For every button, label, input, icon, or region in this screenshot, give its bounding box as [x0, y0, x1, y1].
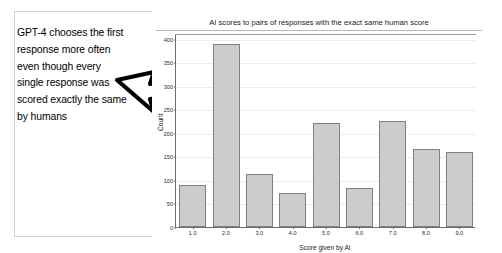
bar — [379, 121, 406, 227]
x-tick-mark — [259, 227, 260, 229]
y-tick-label: 250 — [164, 107, 173, 113]
bar — [446, 152, 473, 227]
bar — [179, 185, 206, 227]
bar-slot: 2.0 — [213, 34, 240, 227]
y-tick-label: 350 — [164, 60, 173, 66]
x-tick-mark — [226, 227, 227, 229]
bar-slot: 1.0 — [179, 34, 206, 227]
y-tick-label: 300 — [164, 84, 173, 90]
bar-slot: 6.0 — [346, 34, 373, 227]
x-tick-label: 3.0 — [255, 230, 263, 236]
x-tick-mark — [326, 227, 327, 229]
x-tick-mark — [193, 227, 194, 229]
bar-slot: 4.0 — [279, 34, 306, 227]
y-tick-label: 200 — [164, 131, 173, 137]
x-tick-mark — [426, 227, 427, 229]
plot-area: 050100150200250300350400 1.02.03.04.05.0… — [175, 35, 475, 228]
title-divider — [156, 30, 482, 31]
y-tick-label: 150 — [164, 154, 173, 160]
bar-slot: 8.0 — [413, 34, 440, 227]
y-tick-label: 50 — [167, 201, 173, 207]
bar-slot: 9.0 — [446, 34, 473, 227]
chart-title: AI scores to pairs of responses with the… — [152, 18, 486, 27]
x-tick-label: 7.0 — [389, 230, 397, 236]
x-axis-label: Score given by AI — [175, 244, 475, 251]
y-tick-label: 400 — [164, 37, 173, 43]
screenshot-root: GPT-4 chooses the first response more of… — [0, 0, 502, 253]
x-tick-label: 4.0 — [289, 230, 297, 236]
chart-panel: AI scores to pairs of responses with the… — [152, 11, 486, 237]
x-tick-label: 1.0 — [189, 230, 197, 236]
y-axis-label: Count — [157, 113, 164, 131]
x-tick-mark — [359, 227, 360, 229]
x-tick-label: 5.0 — [322, 230, 330, 236]
bar — [213, 44, 240, 227]
bar — [413, 149, 440, 227]
bar-series: 1.02.03.04.05.06.07.08.09.0 — [176, 34, 476, 227]
x-tick-mark — [459, 227, 460, 229]
y-tick-label: 100 — [164, 178, 173, 184]
bar-slot: 5.0 — [313, 34, 340, 227]
x-tick-label: 6.0 — [355, 230, 363, 236]
x-tick-mark — [393, 227, 394, 229]
bar-slot: 3.0 — [246, 34, 273, 227]
bar — [279, 193, 306, 227]
bar — [246, 174, 273, 227]
x-tick-mark — [293, 227, 294, 229]
x-tick-label: 8.0 — [422, 230, 430, 236]
bar — [313, 123, 340, 227]
annotation-text: GPT-4 chooses the first response more of… — [17, 25, 129, 126]
x-tick-label: 9.0 — [455, 230, 463, 236]
y-tick-mark — [174, 228, 176, 229]
bar — [346, 188, 373, 227]
y-tick-label: 0 — [170, 225, 173, 231]
bar-slot: 7.0 — [379, 34, 406, 227]
x-tick-label: 2.0 — [222, 230, 230, 236]
